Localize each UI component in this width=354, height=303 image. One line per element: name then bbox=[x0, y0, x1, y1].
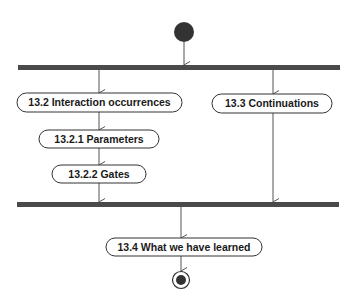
action-node-what-we-have-learned: 13.4 What we have learned bbox=[106, 238, 262, 256]
node-label: 13.4 What we have learned bbox=[117, 241, 250, 253]
node-label: 13.2.2 Gates bbox=[68, 168, 129, 180]
join-bar bbox=[17, 202, 339, 207]
action-node-gates: 13.2.2 Gates bbox=[52, 165, 146, 183]
edges bbox=[99, 42, 273, 271]
action-node-interaction-occurrences: 13.2 Interaction occurrences bbox=[17, 93, 182, 112]
action-node-parameters: 13.2.1 Parameters bbox=[39, 130, 159, 148]
final-node bbox=[173, 272, 190, 289]
node-label: 13.3 Continuations bbox=[225, 97, 319, 109]
initial-node bbox=[174, 22, 194, 42]
activity-diagram: 13.2 Interaction occurrences 13.2.1 Para… bbox=[0, 0, 354, 303]
fork-bar bbox=[18, 65, 340, 70]
action-node-continuations: 13.3 Continuations bbox=[212, 94, 332, 113]
node-label: 13.2 Interaction occurrences bbox=[28, 96, 171, 108]
node-label: 13.2.1 Parameters bbox=[54, 133, 143, 145]
